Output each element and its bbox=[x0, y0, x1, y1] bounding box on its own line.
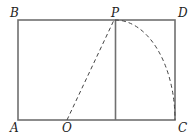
label-p: P bbox=[110, 6, 120, 20]
label-b: B bbox=[9, 6, 19, 20]
dashed-arc-pc bbox=[115, 20, 175, 120]
label-c: C bbox=[178, 121, 187, 135]
dashed-segment-op bbox=[67, 20, 114, 120]
label-d: D bbox=[177, 6, 188, 20]
rectangle-abcd bbox=[18, 20, 175, 120]
geometry-diagram: B P D A O C bbox=[0, 0, 191, 136]
label-a: A bbox=[9, 121, 19, 135]
label-o: O bbox=[62, 121, 72, 135]
